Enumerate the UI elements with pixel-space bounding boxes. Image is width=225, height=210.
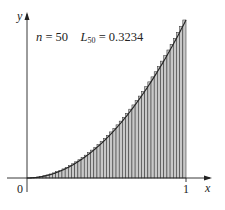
riemann-strip — [122, 117, 125, 178]
riemann-strip — [119, 121, 122, 178]
riemann-strip — [103, 139, 106, 179]
riemann-strip — [157, 67, 160, 178]
riemann-strip — [78, 160, 81, 178]
riemann-strip — [183, 20, 186, 178]
n-value: = 50 — [42, 30, 68, 44]
y-axis-label: y — [17, 10, 22, 22]
x-axis-arrow-icon — [204, 176, 212, 181]
riemann-strip — [129, 109, 132, 178]
riemann-strip — [173, 38, 176, 178]
riemann-strip — [148, 82, 151, 178]
riemann-strip — [151, 77, 154, 178]
riemann-strip — [81, 158, 84, 178]
riemann-strip — [161, 61, 164, 178]
y-axis-arrow-icon — [25, 12, 30, 20]
riemann-strip — [87, 153, 90, 178]
origin-label: 0 — [17, 183, 23, 195]
riemann-strip — [94, 147, 97, 178]
L-value: = 0.3234 — [96, 30, 144, 44]
riemann-strip — [170, 44, 173, 178]
riemann-strip — [154, 72, 157, 178]
riemann-strip — [107, 135, 110, 178]
riemann-strip — [110, 132, 113, 178]
x-tick-label-1: 1 — [183, 183, 189, 195]
riemann-strip — [100, 142, 103, 178]
riemann-strip — [135, 101, 138, 178]
riemann-sum-figure: n = 50 L50 = 0.3234 y x 0 1 — [0, 0, 225, 210]
L-symbol: L — [81, 30, 88, 44]
riemann-strip — [116, 125, 119, 178]
riemann-strip — [141, 91, 144, 178]
riemann-strip — [126, 113, 129, 178]
riemann-strip — [75, 162, 78, 178]
riemann-strip — [164, 56, 167, 178]
x-axis-label: x — [205, 182, 210, 194]
riemann-strip — [138, 96, 141, 178]
riemann-strip — [132, 105, 135, 178]
riemann-strip — [113, 128, 116, 178]
riemann-strip — [84, 155, 87, 178]
riemann-strip — [176, 32, 179, 178]
annotation-label: n = 50 L50 = 0.3234 — [36, 31, 143, 45]
riemann-strip — [91, 150, 94, 178]
riemann-strip — [145, 87, 148, 178]
riemann-strip — [167, 50, 170, 178]
riemann-strip — [97, 145, 100, 178]
L-subscript: 50 — [88, 36, 96, 45]
riemann-strip — [180, 26, 183, 178]
